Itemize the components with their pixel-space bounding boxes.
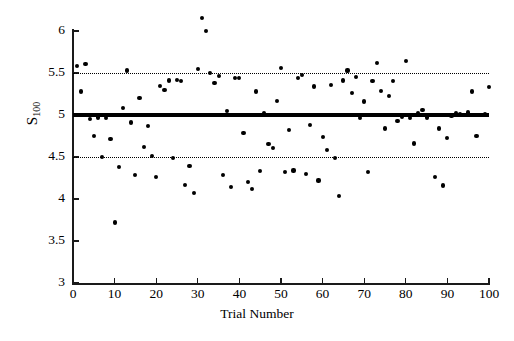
y-tick: [74, 240, 79, 241]
data-point: [275, 99, 279, 103]
x-tick-label: 80: [386, 286, 426, 302]
data-point: [449, 114, 453, 118]
y-tick-label: 5.5: [31, 64, 65, 80]
data-point: [379, 89, 383, 93]
y-tick-label: 3: [31, 274, 65, 290]
x-tick-label: 60: [303, 286, 343, 302]
data-point: [316, 178, 320, 182]
y-tick-label: 3.5: [31, 232, 65, 248]
data-point: [375, 61, 379, 65]
data-point: [487, 85, 491, 89]
data-point: [92, 134, 96, 138]
data-point: [250, 187, 254, 191]
data-point: [117, 165, 121, 169]
x-tick-label: 50: [261, 286, 301, 302]
y-tick-label: 4.5: [31, 148, 65, 164]
data-point: [171, 156, 175, 160]
data-point: [437, 126, 441, 130]
data-point: [412, 141, 416, 145]
data-point: [225, 109, 229, 113]
x-tick: [322, 278, 323, 283]
x-tick: [114, 278, 115, 283]
data-point: [466, 110, 470, 114]
y-tick: [74, 282, 79, 283]
data-point: [387, 94, 391, 98]
data-point: [129, 120, 133, 124]
data-point: [429, 113, 433, 117]
x-tick: [447, 278, 448, 283]
data-point: [441, 183, 445, 187]
data-point: [200, 16, 204, 20]
data-point: [221, 173, 225, 177]
data-point: [425, 115, 429, 119]
data-point: [304, 172, 308, 176]
data-point: [254, 89, 258, 93]
y-tick-label: 4: [31, 190, 65, 206]
x-tick: [197, 278, 198, 283]
data-point: [167, 78, 171, 82]
y-tick-label: 6: [31, 22, 65, 38]
x-tick-label: 40: [219, 286, 259, 302]
data-point: [196, 67, 200, 71]
data-point: [113, 220, 117, 224]
data-point: [192, 191, 196, 195]
data-point: [125, 68, 129, 72]
x-tick-label: 70: [344, 286, 384, 302]
data-point: [400, 115, 404, 119]
data-point: [312, 84, 316, 88]
data-point: [395, 119, 399, 123]
x-axis-line: [72, 283, 490, 285]
data-point: [329, 83, 333, 87]
data-point: [146, 124, 150, 128]
data-point: [162, 88, 166, 92]
x-tick: [405, 278, 406, 283]
y-tick: [74, 30, 79, 31]
data-point: [350, 91, 354, 95]
upper-control-limit: [73, 73, 489, 74]
data-point: [474, 134, 478, 138]
x-tick: [280, 278, 281, 283]
x-tick-label: 100: [469, 286, 509, 302]
y-tick: [74, 198, 79, 199]
scatter-chart-figure: 0102030405060708090100 33.544.555.56 Tri…: [0, 0, 514, 341]
x-tick: [364, 278, 365, 283]
data-point: [142, 145, 146, 149]
data-point: [83, 62, 87, 66]
y-axis-title-subscript: 100: [31, 102, 42, 117]
y-axis-title: S100: [24, 94, 41, 134]
data-point: [345, 68, 349, 72]
data-point: [137, 96, 141, 100]
data-point: [291, 168, 295, 172]
x-tick-label: 90: [427, 286, 467, 302]
x-tick-label: 20: [136, 286, 176, 302]
data-point: [296, 76, 300, 80]
data-point: [420, 108, 424, 112]
data-point: [241, 131, 245, 135]
y-axis-title-base: S: [24, 117, 40, 125]
data-point: [212, 81, 216, 85]
data-point: [187, 164, 191, 168]
data-point: [362, 99, 366, 103]
lower-control-limit: [73, 157, 489, 158]
data-point: [88, 117, 92, 121]
data-point: [271, 146, 275, 150]
data-point: [321, 135, 325, 139]
x-axis-title: Trial Number: [0, 306, 514, 322]
x-tick-label: 30: [178, 286, 218, 302]
data-point: [79, 89, 83, 93]
x-tick-label: 10: [95, 286, 135, 302]
data-point: [383, 126, 387, 130]
x-tick: [239, 278, 240, 283]
x-tick: [488, 278, 489, 283]
data-point: [300, 73, 304, 77]
x-tick: [156, 278, 157, 283]
data-point: [333, 156, 337, 160]
data-point: [96, 115, 100, 119]
